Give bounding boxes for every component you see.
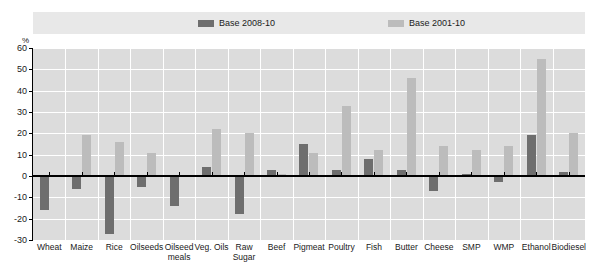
x-axis-label-beef: Beef [268, 242, 286, 252]
x-axis-label-pigmeat: Pigmeat [293, 242, 324, 252]
x-axis-tickmark [471, 172, 472, 176]
y-axis-tick--30: -30 [14, 235, 27, 245]
bar [439, 146, 448, 176]
x-axis-tickmark [439, 172, 440, 176]
bar [527, 135, 536, 176]
x-axis-label-wheat: Wheat [37, 242, 62, 252]
bar [364, 159, 373, 176]
x-axis-tickmark [244, 172, 245, 176]
y-axis-tick-30: 30 [17, 107, 27, 117]
bar-group [130, 48, 162, 240]
x-axis-label-poultry: Poultry [328, 242, 354, 252]
x-axis-label-oilseeds: Oilseeds [130, 242, 163, 252]
x-axis-label-fish: Fish [366, 242, 382, 252]
x-axis-tick-labels: WheatMaizeRiceOilseedsOilseed mealsVeg. … [33, 242, 585, 270]
bar [407, 78, 416, 176]
bar-group [520, 48, 552, 240]
bar-group [65, 48, 97, 240]
bar-group [553, 48, 585, 240]
bar [105, 176, 114, 234]
x-axis-tickmark [147, 172, 148, 176]
bar [429, 176, 438, 191]
bar [569, 133, 578, 176]
legend-swatch-base-2001-10 [388, 20, 404, 27]
x-axis-tickmark [212, 172, 213, 176]
bar [137, 176, 146, 187]
x-axis-tickmark [569, 172, 570, 176]
x-axis-tickmark [341, 172, 342, 176]
x-axis-label-wmp: WMP [493, 242, 514, 252]
bar-group [390, 48, 422, 240]
y-axis-tick--20: -20 [14, 214, 27, 224]
y-axis-tick-labels: -30-20-100102030405060 [0, 48, 30, 240]
bar-group [455, 48, 487, 240]
y-axis-tick-10: 10 [17, 150, 27, 160]
x-axis-label-raw-sugar: Raw Sugar [233, 242, 256, 262]
bar [82, 135, 91, 176]
legend-label-base-2001-10: Base 2001-10 [409, 19, 465, 28]
bar [170, 176, 179, 206]
x-axis-tickmark [49, 172, 50, 176]
legend-item-base-2008-10: Base 2008-10 [198, 12, 275, 34]
x-axis-label-butter: Butter [395, 242, 418, 252]
x-axis-tickmark [406, 172, 407, 176]
x-axis-label-ethanol: Ethanol [522, 242, 551, 252]
chart-legend: Base 2008-10 Base 2001-10 [33, 12, 585, 34]
x-axis-tickmark [179, 172, 180, 176]
x-axis-label-maize: Maize [70, 242, 93, 252]
bar-group [195, 48, 227, 240]
bar [147, 153, 156, 176]
legend-swatch-base-2008-10 [198, 20, 214, 27]
bar [299, 144, 308, 176]
x-axis-tickmark [82, 172, 83, 176]
legend-item-base-2001-10: Base 2001-10 [388, 12, 465, 34]
bar [504, 146, 513, 176]
bar [342, 106, 351, 176]
bar-group [228, 48, 260, 240]
x-axis-tickmark [309, 172, 310, 176]
bar-group [98, 48, 130, 240]
bar [472, 150, 481, 176]
bar [245, 133, 254, 176]
bar [212, 129, 221, 176]
bar [40, 176, 49, 210]
x-axis-tickmark [374, 172, 375, 176]
y-axis-tick-40: 40 [17, 86, 27, 96]
bar-group [33, 48, 65, 240]
bar-group [260, 48, 292, 240]
x-axis-tickmark [536, 172, 537, 176]
bar-group [358, 48, 390, 240]
bar [72, 176, 81, 189]
y-axis-tick-60: 60 [17, 43, 27, 53]
x-axis-tickmark [114, 172, 115, 176]
y-axis-tick-0: 0 [22, 171, 27, 181]
bar [235, 176, 244, 214]
x-axis-tickmark [277, 172, 278, 176]
x-axis-label-veg-oils: Veg. Oils [195, 242, 229, 252]
bar [537, 59, 546, 176]
x-axis-tickmark [504, 172, 505, 176]
x-axis-label-biodiesel: Biodiesel [552, 242, 587, 252]
bar-groups [33, 48, 585, 240]
x-axis-label-oilseed-meals: Oilseed meals [165, 242, 194, 262]
bar-group [488, 48, 520, 240]
x-axis-label-cheese: Cheese [424, 242, 453, 252]
bar-group [293, 48, 325, 240]
bar-group [163, 48, 195, 240]
bar-group [423, 48, 455, 240]
x-axis-label-rice: Rice [106, 242, 123, 252]
bar [115, 142, 124, 176]
bar-group [325, 48, 357, 240]
bar [309, 153, 318, 176]
plot-area [33, 48, 585, 240]
gridline--30 [33, 240, 585, 241]
x-axis-label-smp: SMP [462, 242, 480, 252]
bar [374, 150, 383, 176]
y-axis-tick-50: 50 [17, 64, 27, 74]
y-axis-tick--10: -10 [14, 192, 27, 202]
y-axis-tick-20: 20 [17, 128, 27, 138]
chart-container: Base 2008-10 Base 2001-10 % -30-20-10010… [0, 0, 602, 270]
legend-label-base-2008-10: Base 2008-10 [219, 19, 275, 28]
